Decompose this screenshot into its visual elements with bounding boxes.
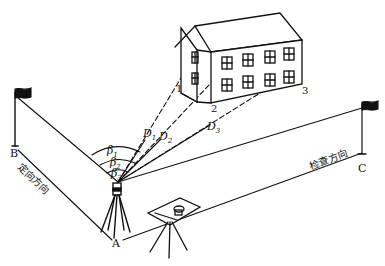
surveying-diagram: B C A 1 2 3 D1 D2 D3 β1 β2 β3 定向方向 检查方向 [0, 0, 385, 266]
point-a-label: A [112, 238, 120, 249]
distance-d1-label: D1 [143, 128, 156, 142]
corner-2-label: 2 [211, 104, 217, 114]
building-icon [175, 13, 302, 103]
distance-d3-label: D3 [207, 121, 220, 135]
angle-beta3-label: β3 [111, 168, 122, 182]
flag-c-icon [358, 101, 378, 154]
corner-3-label: 3 [302, 86, 308, 96]
flag-b-icon [12, 88, 31, 146]
distance-d2-label: D2 [159, 131, 172, 145]
point-c-label: C [358, 163, 366, 174]
diagram-drawing [0, 0, 385, 266]
theodolite-tripod-icon [101, 183, 130, 238]
corner-1-label: 1 [176, 84, 182, 94]
point-b-label: B [10, 148, 18, 159]
